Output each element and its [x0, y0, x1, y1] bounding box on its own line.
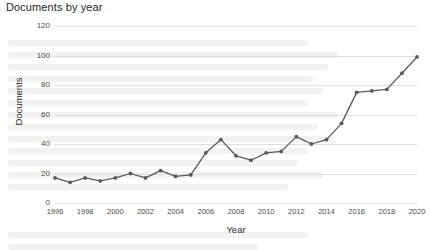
data-point: [355, 90, 359, 94]
data-point: [325, 138, 329, 142]
data-point: [159, 169, 163, 173]
data-point: [219, 138, 223, 142]
data-point: [294, 135, 298, 139]
data-point: [234, 154, 238, 158]
series-line: [55, 57, 417, 182]
data-point: [129, 172, 133, 176]
data-point: [83, 176, 87, 180]
data-point: [310, 142, 314, 146]
data-point: [204, 151, 208, 155]
data-point: [400, 71, 404, 75]
data-point: [68, 180, 72, 184]
data-point: [189, 173, 193, 177]
data-point: [144, 176, 148, 180]
data-point: [113, 176, 117, 180]
data-point: [279, 149, 283, 153]
data-point: [385, 88, 389, 92]
data-point: [249, 158, 253, 162]
data-point: [174, 175, 178, 179]
data-point: [53, 176, 57, 180]
data-point: [98, 179, 102, 183]
data-point: [340, 121, 344, 125]
data-point: [370, 89, 374, 93]
series-markers: [53, 55, 419, 184]
data-point: [415, 55, 419, 59]
data-point: [264, 151, 268, 155]
